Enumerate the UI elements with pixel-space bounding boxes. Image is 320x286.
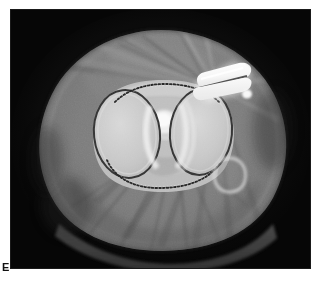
figure-panel: E [0,0,320,286]
ct-scan-frame [11,10,310,268]
figure-panel-letter: E [2,261,9,273]
axial-ct-knee-slice [11,10,310,268]
